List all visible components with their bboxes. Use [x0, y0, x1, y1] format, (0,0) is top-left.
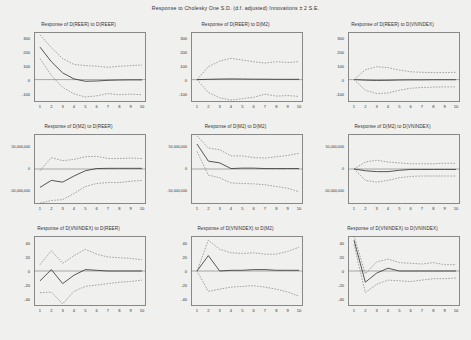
irf-panel: Response of D(VNINDEX) to D(REER)40200-2…: [0, 224, 157, 326]
x-tick-label: 5: [241, 104, 243, 109]
x-tick-label: 9: [287, 308, 289, 313]
y-tick-label: 200: [337, 49, 344, 54]
x-tick-label: 3: [376, 104, 378, 109]
x-tick-label: 4: [73, 308, 75, 313]
plot-area: [348, 134, 460, 204]
x-tick-label: 1: [39, 308, 41, 313]
x-tick-label: 7: [421, 206, 423, 211]
y-axis-labels: 50,000,0000-50,000,000: [157, 134, 189, 204]
x-tick-label: 3: [62, 206, 64, 211]
x-tick-label: 10: [454, 206, 459, 211]
x-tick-label: 4: [387, 104, 389, 109]
y-tick-label: -20: [338, 283, 344, 288]
x-tick-label: 10: [297, 206, 302, 211]
irf-line: [197, 79, 299, 80]
x-tick-label: 4: [73, 104, 75, 109]
confidence-band-line: [40, 35, 142, 67]
plot-area: [191, 134, 303, 204]
x-tick-label: 8: [275, 104, 277, 109]
x-tick-label: 6: [96, 206, 98, 211]
y-tick-label: -40: [338, 297, 344, 302]
y-tick-label: -40: [24, 297, 30, 302]
irf-panel: Response of D(REER) to D(M2)3002001000-1…: [157, 20, 314, 122]
x-tick-label: 1: [39, 104, 41, 109]
confidence-band-line: [40, 280, 142, 304]
x-tick-label: 7: [264, 206, 266, 211]
irf-plot: [348, 134, 460, 204]
x-tick-label: 1: [196, 104, 198, 109]
y-tick-label: 100: [23, 63, 30, 68]
x-tick-label: 5: [84, 104, 86, 109]
impulse-response-figure: Response to Cholesky One S.D. (d.f. adju…: [0, 0, 471, 340]
x-tick-label: 8: [432, 308, 434, 313]
figure-title: Response to Cholesky One S.D. (d.f. adju…: [0, 5, 471, 11]
x-tick-label: 1: [196, 308, 198, 313]
irf-plot: [191, 134, 303, 204]
x-tick-label: 8: [275, 206, 277, 211]
y-tick-label: 200: [23, 49, 30, 54]
x-tick-label: 10: [297, 104, 302, 109]
irf-panel: Response of D(REER) to D(REER)3002001000…: [0, 20, 157, 122]
x-tick-label: 4: [73, 206, 75, 211]
y-tick-label: 0: [185, 269, 187, 274]
confidence-band-line: [197, 271, 299, 296]
irf-plot: [348, 32, 460, 102]
y-axis-labels: 3002001000-100: [314, 32, 346, 102]
y-tick-label: 20: [182, 255, 187, 260]
x-axis-labels: 12345678910: [348, 308, 460, 317]
x-axis-labels: 12345678910: [191, 308, 303, 317]
x-tick-label: 6: [253, 308, 255, 313]
x-tick-label: 6: [410, 308, 412, 313]
x-tick-label: 2: [364, 104, 366, 109]
y-tick-label: -100: [179, 91, 187, 96]
y-axis-labels: 50,000,0000-50,000,000: [314, 134, 346, 204]
y-axis-labels: 3002001000-100: [157, 32, 189, 102]
x-axis-labels: 12345678910: [348, 104, 460, 113]
x-tick-label: 9: [130, 206, 132, 211]
x-tick-label: 9: [287, 206, 289, 211]
x-tick-label: 4: [230, 308, 232, 313]
y-tick-label: -50,000,000: [324, 189, 344, 193]
confidence-band-line: [197, 240, 299, 271]
irf-panel: Response of D(M2) to D(REER)50,000,0000-…: [0, 122, 157, 224]
x-tick-label: 9: [444, 308, 446, 313]
x-tick-label: 5: [241, 308, 243, 313]
x-tick-label: 2: [50, 206, 52, 211]
x-tick-label: 8: [275, 308, 277, 313]
plot-area: [348, 32, 460, 102]
x-tick-label: 10: [140, 308, 145, 313]
x-tick-label: 4: [230, 104, 232, 109]
y-tick-label: 40: [182, 241, 187, 246]
x-tick-label: 3: [62, 308, 64, 313]
y-tick-label: 50,000,000: [12, 145, 30, 149]
panel-title: Response of D(VNINDEX) to D(VNINDEX): [314, 226, 471, 231]
y-tick-label: 0: [28, 77, 30, 82]
panel-title: Response of D(M2) to D(REER): [0, 124, 157, 129]
x-tick-label: 6: [253, 104, 255, 109]
x-axis-labels: 12345678910: [34, 206, 146, 215]
x-tick-label: 7: [107, 104, 109, 109]
x-tick-label: 7: [107, 206, 109, 211]
y-tick-label: 0: [28, 167, 30, 171]
y-tick-label: -20: [24, 283, 30, 288]
x-tick-label: 1: [353, 206, 355, 211]
panel-title: Response of D(REER) to D(M2): [157, 22, 314, 27]
y-tick-label: 0: [342, 77, 344, 82]
irf-plot: [34, 236, 146, 306]
irf-line: [40, 168, 142, 187]
x-tick-label: 10: [140, 206, 145, 211]
x-tick-label: 8: [432, 104, 434, 109]
x-tick-label: 4: [387, 206, 389, 211]
x-tick-label: 1: [353, 104, 355, 109]
panel-title: Response of D(M2) to D(M2): [157, 124, 314, 129]
x-tick-label: 4: [230, 206, 232, 211]
y-tick-label: 0: [342, 269, 344, 274]
irf-line: [197, 256, 299, 271]
panel-grid: Response of D(REER) to D(REER)3002001000…: [0, 20, 471, 338]
y-tick-label: 20: [339, 255, 344, 260]
x-tick-label: 6: [410, 104, 412, 109]
confidence-band-line: [354, 160, 456, 169]
confidence-band-line: [354, 80, 456, 94]
x-tick-label: 2: [364, 308, 366, 313]
y-tick-label: 300: [23, 35, 30, 40]
